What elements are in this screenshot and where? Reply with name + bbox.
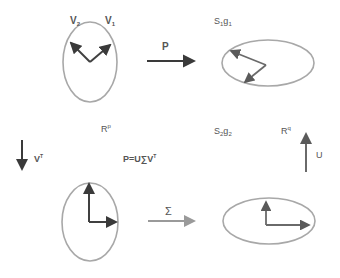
v2-label: V2 bbox=[70, 15, 81, 27]
transformed-vector-1 bbox=[231, 51, 266, 65]
rp-label: Rp bbox=[101, 123, 112, 134]
p-transform-arrow: P bbox=[147, 41, 194, 61]
rq-label: Rq bbox=[281, 125, 291, 136]
output-ellipse bbox=[222, 40, 314, 86]
panel-output-space: S1g1 bbox=[214, 16, 314, 86]
u-label: U bbox=[316, 150, 323, 160]
v1-label: V1 bbox=[105, 15, 116, 27]
sigma-transform-arrow: Σ bbox=[148, 205, 194, 221]
panel-input-space: V2 V1 bbox=[63, 15, 117, 102]
svd-diagram: V2 V1 P S1g1 Rp VT P=U∑VT S2g2 Rq U Σ bbox=[0, 0, 340, 278]
p-label: P bbox=[162, 41, 169, 52]
scaled-ellipse bbox=[223, 198, 315, 244]
panel-rotated-input bbox=[62, 183, 118, 261]
v2-vector bbox=[71, 43, 90, 62]
s2g2-label: S2g2 bbox=[214, 126, 232, 137]
s1g1-label: S1g1 bbox=[214, 16, 232, 27]
vt-label: VT bbox=[34, 153, 43, 164]
svd-equation: P=U∑VT bbox=[123, 153, 156, 164]
vt-transform-arrow: VT bbox=[22, 140, 43, 169]
u-transform-arrow: U bbox=[306, 134, 323, 172]
panel-scaled bbox=[223, 198, 315, 244]
v1-vector bbox=[90, 45, 110, 62]
sigma-label: Σ bbox=[165, 205, 172, 217]
transformed-vector-2 bbox=[245, 65, 266, 82]
